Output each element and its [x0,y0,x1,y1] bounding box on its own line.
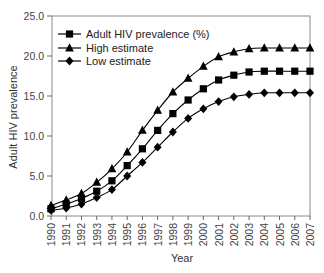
legend-item: Adult HIV prevalence (%) [58,28,210,40]
diamond-marker-icon [230,92,238,101]
square-marker-icon [306,68,313,75]
diamond-marker-icon [291,88,299,97]
x-tick-label: 2003 [243,223,255,247]
x-tick-label: 1999 [182,223,194,247]
diamond-marker-icon [215,97,223,106]
square-marker-icon [185,96,192,103]
y-axis: 0.05.010.015.020.025.0 [24,10,52,222]
legend-label: High estimate [86,42,153,54]
y-tick-label: 25.0 [24,10,45,22]
x-tick-label: 2001 [213,223,225,247]
x-tick-label: 1993 [91,223,103,247]
square-marker-icon [276,68,283,75]
x-tick-label: 1997 [152,223,164,247]
square-marker-icon [139,145,146,152]
triangle-marker-icon [275,43,284,51]
diamond-marker-icon [184,114,192,123]
x-tick-label: 2002 [228,223,240,247]
y-tick-label: 15.0 [24,90,45,102]
triangle-marker-icon [184,74,193,82]
x-axis: 1990199119921993199419951996199719981999… [45,216,316,246]
x-tick-label: 2007 [304,223,316,247]
triangle-marker-icon [65,43,74,51]
x-tick-label: 1991 [60,223,72,247]
x-tick-label: 2005 [274,223,286,247]
y-tick-label: 10.0 [24,130,45,142]
x-tick-label: 2000 [197,223,209,247]
y-tick-label: 5.0 [29,170,44,182]
square-marker-icon [108,177,115,184]
triangle-marker-icon [290,43,299,51]
diamond-marker-icon [276,88,284,97]
square-marker-icon [261,68,268,75]
square-marker-icon [154,127,161,134]
triangle-marker-icon [77,189,86,197]
square-marker-icon [215,76,222,83]
legend-item: High estimate [58,42,153,54]
square-marker-icon [200,85,207,92]
x-tick-label: 2006 [289,223,301,247]
square-marker-icon [291,68,298,75]
triangle-marker-icon [306,43,315,51]
x-tick-label: 1992 [75,223,87,247]
x-tick-label: 1996 [136,223,148,247]
legend-label: Adult HIV prevalence (%) [86,28,210,40]
square-marker-icon [169,110,176,117]
diamond-marker-icon [260,88,268,97]
x-tick-label: 1990 [45,223,57,247]
legend-label: Low estimate [86,55,151,67]
x-tick-label: 1995 [121,223,133,247]
hiv-prevalence-chart: 0.05.010.015.020.025.0 19901991199219931… [0,0,324,273]
series-square [47,68,313,213]
x-tick-label: 1998 [167,223,179,247]
series-layer [47,43,315,215]
diamond-marker-icon [108,185,116,194]
y-axis-title: Adult HIV prevalence [7,65,19,168]
diamond-marker-icon [245,90,253,99]
y-tick-label: 0.0 [29,210,44,222]
x-tick-label: 1994 [106,223,118,247]
square-marker-icon [124,162,131,169]
legend: Adult HIV prevalence (%)High estimateLow… [58,28,210,67]
triangle-marker-icon [199,62,208,70]
square-marker-icon [66,30,73,37]
x-tick-label: 2004 [258,223,270,247]
diamond-marker-icon [306,88,314,97]
square-marker-icon [230,72,237,79]
diamond-marker-icon [199,104,207,113]
triangle-marker-icon [260,43,269,51]
chart-canvas: 0.05.010.015.020.025.0 19901991199219931… [0,0,324,273]
x-axis-title: Year [171,252,194,264]
legend-item: Low estimate [58,55,151,67]
series-line [51,93,310,211]
diamond-marker-icon [66,57,74,66]
y-tick-label: 20.0 [24,50,45,62]
square-marker-icon [245,68,252,75]
series-triangle [47,43,315,209]
triangle-marker-icon [92,178,101,186]
